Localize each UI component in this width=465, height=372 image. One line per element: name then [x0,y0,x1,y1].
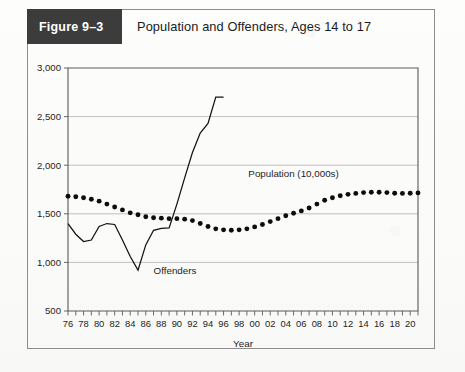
population-data-point [353,191,358,196]
population-data-point [346,192,351,197]
population-data-point [276,216,281,221]
population-data-point [314,202,319,207]
x-tick-label: 06 [296,318,306,329]
x-tick-label: 98 [234,318,244,329]
population-data-point [322,198,327,203]
figure-header: Figure 9–3 Population and Offenders, Age… [27,9,435,44]
x-tick-label: 18 [389,318,399,329]
population-data-point [97,199,102,204]
y-axis-labels-group: 5001,0001,5002,0002,5003,000 [37,62,61,316]
population-data-point [244,226,249,231]
population-series-markers [66,190,421,233]
population-data-point [213,226,218,231]
population-data-point [182,217,187,222]
x-tick-label: 84 [125,318,135,329]
population-data-point [400,191,405,196]
population-data-point [416,190,421,195]
x-tick-label: 20 [405,318,415,329]
population-data-point [408,191,413,196]
x-tick-label: 92 [187,318,197,329]
population-data-point [73,194,78,199]
population-data-point [174,216,179,221]
population-data-point [361,190,366,195]
population-data-point [89,197,94,202]
population-data-point [229,228,234,233]
x-tick-label: 80 [94,318,104,329]
plot-frame [68,68,418,311]
population-data-point [128,210,133,215]
chart-container: 5001,0001,5002,0002,5003,000 76788082848… [27,44,435,349]
population-data-point [198,221,203,226]
population-data-point [377,190,382,195]
population-series-label: Population (10,000s) [248,168,338,179]
population-data-point [81,195,86,200]
population-data-point [268,219,273,224]
x-tick-label: 90 [172,318,182,329]
figure-title: Population and Offenders, Ages 14 to 17 [137,9,371,44]
population-data-point [392,191,397,196]
population-data-point [221,227,226,232]
population-data-point [384,190,389,195]
x-axis-labels-group: 7678808284868890929496980002040608101214… [63,318,416,329]
population-data-point [260,222,265,227]
line-chart: 5001,0001,5002,0002,5003,000 76788082848… [27,44,435,349]
population-data-point [167,216,172,221]
x-tick-label: 14 [358,318,368,329]
population-data-point [66,194,71,199]
x-tick-label: 94 [203,318,213,329]
gridlines-group [64,68,418,311]
population-data-point [104,202,109,207]
x-tick-label: 88 [156,318,166,329]
x-axis-title: Year [233,338,254,349]
population-data-point [299,208,304,213]
y-tick-label: 1,500 [37,208,61,219]
x-tick-label: 12 [343,318,353,329]
x-tick-label: 96 [218,318,228,329]
y-tick-label: 1,000 [37,257,61,268]
offenders-series-label: Offenders [154,265,197,276]
x-tick-label: 04 [281,318,291,329]
population-data-point [120,207,125,212]
x-tick-label: 00 [249,318,259,329]
population-data-point [330,195,335,200]
y-tick-label: 3,000 [37,62,61,73]
y-tick-label: 2,000 [37,160,61,171]
figure-number-badge: Figure 9–3 [27,9,122,44]
population-data-point [143,214,148,219]
offenders-series-line [68,97,224,270]
population-data-point [307,206,312,211]
population-data-point [291,211,296,216]
population-data-point [283,213,288,218]
population-data-point [252,224,257,229]
population-data-point [136,212,141,217]
x-tick-label: 08 [312,318,322,329]
x-tick-label: 02 [265,318,275,329]
x-tick-label: 86 [141,318,151,329]
population-data-point [237,227,242,232]
x-tick-label: 10 [327,318,337,329]
population-data-point [151,215,156,220]
y-tick-label: 500 [45,305,61,316]
population-data-point [206,224,211,229]
x-tick-label: 16 [374,318,384,329]
x-tick-group [68,311,418,316]
population-data-point [369,190,374,195]
population-data-point [190,218,195,223]
population-data-point [112,205,117,210]
x-tick-label: 78 [78,318,88,329]
x-tick-label: 82 [109,318,119,329]
population-data-point [338,193,343,198]
y-tick-label: 2,500 [37,111,61,122]
population-data-point [159,216,164,221]
x-tick-label: 76 [63,318,73,329]
